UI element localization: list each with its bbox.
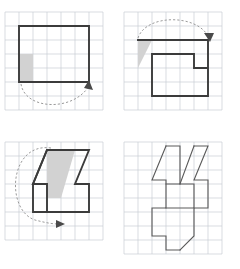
- figure-title: Four-panel shape rotation sequence on sq…: [0, 21, 1, 22]
- panel-bottom-left: Panel 3 — rotated polygon with shaded pa…: [3, 136, 118, 258]
- grid-lines-bottom-right: [124, 142, 222, 254]
- panel-top-left: Panel 1 — square with one shaded unit ce…: [3, 6, 118, 128]
- arrow-head-bottom-left: [56, 220, 65, 228]
- rotation-arc-top-right: [138, 20, 208, 38]
- rotation-arc-top-left: [21, 84, 89, 105]
- panel-bottom-right: Panel 4 — final combined outline shape, …: [122, 136, 237, 258]
- shaded-parallelogram-bottom-left: [47, 150, 75, 198]
- composite-outline-top-bottom-right: [166, 146, 180, 184]
- shaded-cell-top-left: [19, 54, 33, 82]
- rotated-polygon-edge-bottom-left: [33, 150, 47, 212]
- figure-root: Four-panel shape rotation sequence on sq…: [0, 0, 240, 269]
- panel-top-right: Panel 2 — stepped polygon with shaded tr…: [122, 6, 237, 128]
